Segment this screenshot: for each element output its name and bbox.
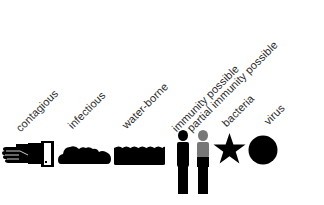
label-virus: virus xyxy=(262,102,287,127)
hand-door-icon xyxy=(2,141,55,167)
cloud-icon xyxy=(58,143,112,165)
label-infectious: infectious xyxy=(66,90,107,131)
label-contagious: contagious xyxy=(14,88,60,134)
person-half-gray-icon xyxy=(196,130,210,194)
water-icon xyxy=(113,144,166,166)
circle-icon xyxy=(248,135,278,165)
star-icon xyxy=(213,133,246,165)
label-water-borne: water-borne xyxy=(120,81,170,131)
person-black-icon xyxy=(176,130,190,194)
